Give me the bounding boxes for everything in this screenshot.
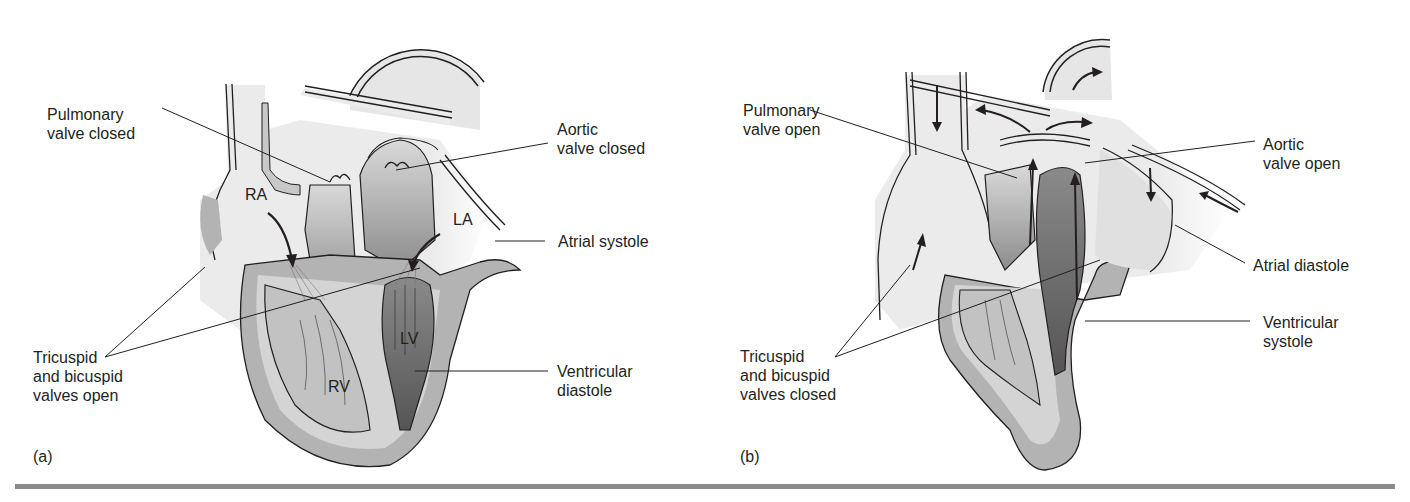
label-atrial-diastole: Atrial diastole	[1253, 256, 1349, 275]
leader-tricuspid-a	[105, 267, 205, 357]
label-aortic-valve-open: Aortic valve open	[1263, 135, 1340, 173]
label-atrial-systole: Atrial systole	[558, 232, 649, 251]
label-pulmonary-valve-closed: Pulmonary valve closed	[47, 105, 135, 143]
label-tricuspid-bicuspid-closed: Tricuspid and bicuspid valves closed	[740, 347, 836, 404]
label-pulmonary-valve-open: Pulmonary valve open	[743, 101, 820, 139]
label-tricuspid-bicuspid-open: Tricuspid and bicuspid valves open	[33, 348, 123, 405]
panel-label-a: (a)	[33, 448, 53, 466]
chamber-la: LA	[453, 211, 473, 229]
label-ventricular-diastole: Ventricular diastole	[557, 362, 633, 400]
label-ventricular-systole: Ventricular systole	[1263, 313, 1339, 351]
chamber-ra: RA	[245, 186, 267, 204]
panel-b-heart	[810, 40, 1255, 470]
bottom-rule-divider	[15, 484, 1395, 489]
heart-illustrations	[0, 0, 1410, 502]
chamber-rv: RV	[328, 378, 350, 396]
heart-cardiac-cycle-figure: Pulmonary valve closed Aortic valve clos…	[0, 0, 1410, 502]
panel-a-heart	[105, 50, 548, 467]
panel-label-b: (b)	[740, 448, 760, 466]
label-aortic-valve-closed: Aortic valve closed	[557, 120, 645, 158]
chamber-lv: LV	[400, 330, 418, 348]
